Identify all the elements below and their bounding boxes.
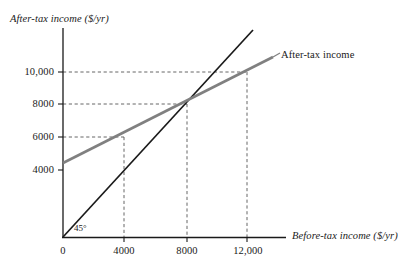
y-axis-title: After-tax income ($/yr) xyxy=(10,14,109,25)
y-tick-label-6000: 6000 xyxy=(0,132,54,143)
series-line-45-degree xyxy=(63,30,253,237)
y-tick-label-4000: 4000 xyxy=(0,165,54,176)
series-label-leader xyxy=(273,53,280,57)
x-tick-label-12000: 12,000 xyxy=(224,246,272,257)
x-tick-label-8000: 8000 xyxy=(165,246,209,257)
y-tick-label-10000: 10,000 xyxy=(0,67,54,78)
series-label-after-tax-income: After-tax income xyxy=(281,50,354,61)
x-tick-label-4000: 4000 xyxy=(102,246,146,257)
y-tick-label-8000: 8000 xyxy=(0,99,54,110)
x-tick-label-0: 0 xyxy=(41,246,85,257)
series-line-after-tax-income xyxy=(63,57,273,163)
angle-45-label: 45° xyxy=(74,224,87,233)
x-axis-title: Before-tax income ($/yr) xyxy=(292,231,398,242)
